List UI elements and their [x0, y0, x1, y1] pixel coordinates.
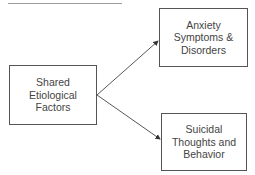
- node-anxiety-symptoms-disorders: Anxiety Symptoms & Disorders: [159, 8, 248, 67]
- node-label: Anxiety Symptoms & Disorders: [174, 19, 234, 57]
- arrow-shared-to-suicidal: [97, 95, 160, 139]
- arrow-shared-to-anxiety: [97, 41, 158, 95]
- node-suicidal-thoughts-behavior: Suicidal Thoughts and Behavior: [161, 113, 247, 171]
- node-shared-etiological-factors: Shared Etiological Factors: [9, 65, 97, 125]
- node-label: Suicidal Thoughts and Behavior: [172, 123, 236, 161]
- node-label: Shared Etiological Factors: [29, 76, 77, 114]
